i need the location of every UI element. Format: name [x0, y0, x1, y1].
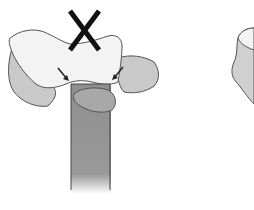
right-lobe — [117, 56, 158, 93]
right-panel — [232, 28, 254, 104]
left-panel — [9, 11, 159, 194]
diagram-canvas — [0, 0, 254, 210]
